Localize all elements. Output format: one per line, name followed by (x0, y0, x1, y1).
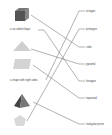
right-label-cube: cube (86, 46, 92, 49)
left-label-six-sided: a six-sided shape (10, 28, 30, 31)
line-pyramid-triangular-prism (33, 102, 85, 124)
line-parallelogram-trapezoid (33, 65, 85, 98)
triangle-icon (12, 40, 32, 52)
parallelogram-icon (12, 58, 32, 70)
right-label-octagon: octagon (86, 10, 95, 13)
matching-diagram: a six-sided shape a shape with eight sid… (0, 0, 112, 135)
right-label-hexagon: hexagon (86, 80, 96, 83)
line-triangle-pyramid (31, 49, 85, 64)
line-cube-cube (31, 15, 85, 47)
line-eight-sides-octagon (46, 11, 85, 80)
right-label-triangular-prism: triangular prism (86, 123, 104, 126)
right-label-pentagon: pentagon (86, 28, 97, 31)
cube-icon (13, 7, 31, 23)
pyramid-icon (12, 93, 32, 109)
right-label-trapezoid: trapezoid (86, 97, 97, 100)
right-label-pyramid: pyramid (86, 63, 95, 66)
line-pentagon-pentagon (27, 29, 85, 121)
left-label-eight-sides: a shape with eight sides (10, 79, 38, 82)
pentagon-icon (13, 114, 27, 127)
